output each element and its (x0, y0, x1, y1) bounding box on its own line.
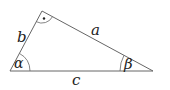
right-angle-dot (43, 17, 45, 19)
side-a-label: a (91, 21, 100, 39)
side-b-label: b (17, 28, 27, 46)
angle-alpha-label: α (14, 55, 24, 71)
triangle-diagram: b a c α β (0, 0, 170, 90)
angle-beta-label: β (123, 55, 133, 73)
side-c-label: c (72, 71, 81, 89)
